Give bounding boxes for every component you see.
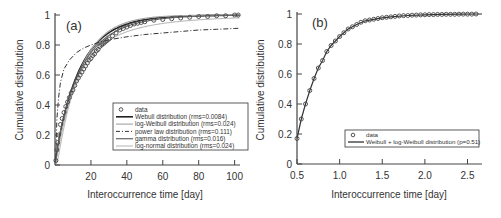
y-tick-label: 0.4 — [278, 99, 292, 110]
fit-curve — [297, 14, 482, 139]
panel-b-label: (b) — [312, 15, 328, 30]
y-tick-label: 0 — [286, 159, 292, 170]
panel-a-ylabel: Cumulative distribution — [14, 39, 25, 140]
y-tick-label: 0.8 — [36, 40, 50, 51]
panel-b-ylabel: Cumulative distribution — [255, 39, 266, 140]
x-tick-label: 1.5 — [375, 170, 389, 181]
panel-b-xlabel: Interoccurrence time [day] — [331, 189, 447, 200]
y-tick-label: 0.4 — [36, 100, 50, 111]
y-tick-label: 0.8 — [278, 39, 292, 50]
x-tick-label: 2.5 — [461, 170, 475, 181]
x-tick-label: 1.0 — [333, 170, 347, 181]
legend-entry: log-normal distribution (rms=0.024) — [135, 142, 234, 150]
panel-a-chart: 00.20.40.60.8120406080100 (a) Interoccur… — [14, 10, 248, 201]
panel-b-curves — [297, 14, 482, 139]
y-tick-label: 0.2 — [278, 129, 292, 140]
legend-entry: data — [366, 131, 379, 138]
legend-entry: data — [135, 106, 148, 113]
x-tick-label: 2.0 — [418, 170, 432, 181]
y-tick-label: 0.2 — [36, 130, 50, 141]
y-tick-label: 0.6 — [278, 69, 292, 80]
panel-a-xlabel: Interoccurrence time [day] — [87, 189, 203, 200]
panel-b-data-points — [295, 12, 478, 141]
x-tick-label: 0.5 — [290, 170, 304, 181]
panel-b-chart: 00.20.40.60.810.51.01.52.02.5 (b) Intero… — [255, 9, 482, 201]
legend-entry: Weibull + log-Weibull distribution (p=0.… — [366, 138, 480, 145]
x-tick-label: 80 — [193, 171, 205, 182]
panel-a-legend: dataWebull distribution (rms=0.0084)log-… — [113, 103, 248, 150]
data-point — [110, 34, 114, 38]
panel-a-axes: 00.20.40.60.8120406080100 — [36, 10, 243, 183]
y-tick-label: 0.6 — [36, 70, 50, 81]
x-tick-label: 60 — [157, 171, 169, 182]
y-tick-label: 1 — [44, 10, 50, 21]
panel-b-legend: dataWeibull + log-Weibull distribution (… — [345, 130, 480, 147]
x-tick-label: 100 — [226, 171, 243, 182]
figure: 00.20.40.60.8120406080100 (a) Interoccur… — [0, 0, 501, 218]
panel-a-label: (a) — [66, 18, 82, 33]
y-tick-label: 1 — [286, 9, 292, 20]
x-tick-label: 20 — [85, 171, 97, 182]
y-tick-label: 0 — [44, 160, 50, 171]
x-tick-label: 40 — [121, 171, 133, 182]
